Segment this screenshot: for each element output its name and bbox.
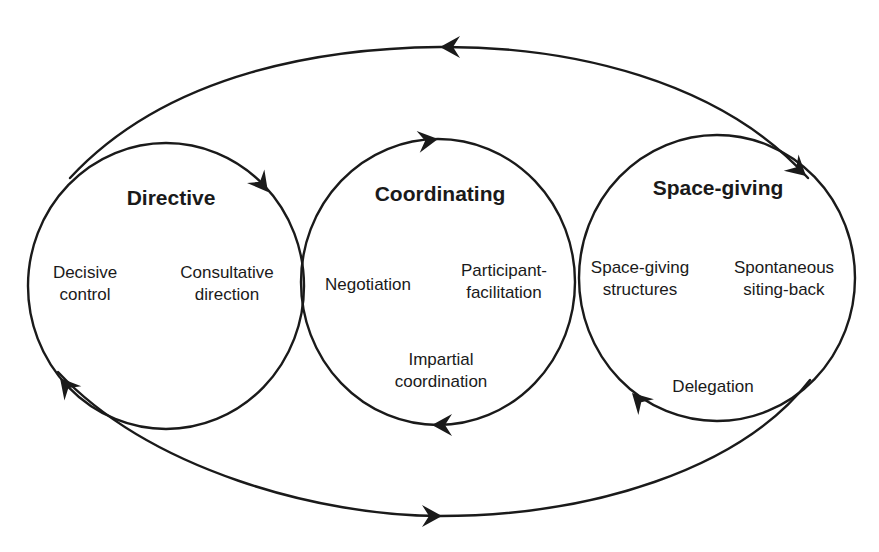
item-line: Consultative [162, 262, 292, 284]
item-line: Impartial [382, 349, 500, 371]
directive-title: Directive [96, 186, 246, 210]
item-line: Spontaneous [716, 257, 852, 279]
item-line: Decisive [30, 262, 140, 284]
space-giving-cycle-arrowhead-icon [624, 385, 654, 415]
item-line: Negotiation [308, 274, 428, 296]
space-giving-item-structures: Space-giving structures [580, 257, 700, 301]
coordinating-title: Coordinating [355, 182, 525, 206]
directive-item-decisive-control: Decisive control [30, 262, 140, 306]
item-line: Delegation [658, 376, 768, 398]
directive-item-consultative-direction: Consultative direction [162, 262, 292, 306]
space-giving-title: Space-giving [628, 176, 808, 200]
item-line: siting-back [716, 279, 852, 301]
item-line: Space-giving [580, 257, 700, 279]
coordinating-item-negotiation: Negotiation [308, 274, 428, 296]
item-line: Participant- [448, 260, 560, 282]
item-line: control [30, 284, 140, 306]
space-giving-item-spontaneous-siting-back: Spontaneous siting-back [716, 257, 852, 301]
coordinating-item-impartial-coordination: Impartial coordination [382, 349, 500, 393]
item-line: coordination [382, 371, 500, 393]
space-giving-item-delegation: Delegation [658, 376, 768, 398]
item-line: facilitation [448, 282, 560, 304]
item-line: direction [162, 284, 292, 306]
outer-top-arc [70, 47, 808, 178]
coordinating-item-participant-facilitation: Participant- facilitation [448, 260, 560, 304]
item-line: structures [580, 279, 700, 301]
